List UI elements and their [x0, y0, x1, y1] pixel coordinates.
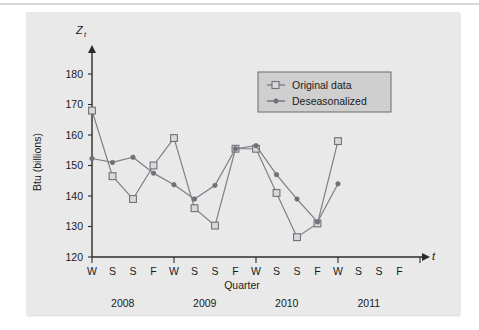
chart-figure-panel: Btu (billions) Z t t 1201301401501601701…: [26, 12, 459, 315]
y-tick-label: 150: [65, 159, 83, 171]
x-tick-labels: WSSFWSSFWSSFWSSF: [87, 257, 420, 277]
series-original-data: [89, 107, 342, 240]
x-tick-label: W: [251, 265, 261, 277]
x-tick-label: S: [211, 265, 218, 277]
data-point-marker: [294, 234, 301, 241]
data-series-group: [89, 107, 342, 240]
y-tick-label: 180: [65, 68, 83, 80]
data-point-marker: [90, 156, 94, 160]
y-tick-label: 170: [65, 98, 83, 110]
data-point-marker: [213, 183, 217, 187]
year-group-label: 2008: [111, 297, 135, 309]
x-tick-label: S: [129, 265, 136, 277]
year-group-labels: 2008200920102011: [111, 297, 380, 309]
data-point-marker: [191, 205, 198, 212]
data-point-marker: [233, 147, 237, 151]
y-tick-label: 140: [65, 190, 83, 202]
x-tick-label: S: [109, 265, 116, 277]
y-axis-title: Btu (billions): [31, 133, 43, 191]
x-tick-label: S: [293, 265, 300, 277]
x-tick-label: F: [150, 265, 156, 277]
data-point-marker: [89, 107, 96, 114]
data-point-marker: [274, 172, 278, 176]
data-point-marker: [192, 197, 196, 201]
data-point-marker: [212, 222, 219, 229]
top-divider-rule: [0, 3, 479, 5]
x-tick-label: W: [87, 265, 97, 277]
data-point-marker: [335, 138, 342, 145]
data-point-marker: [254, 143, 258, 147]
y-axis-variable-subscript: t: [84, 30, 87, 39]
data-point-marker: [336, 182, 340, 186]
x-axis-variable-label: t: [432, 250, 436, 262]
x-tick-label: S: [355, 265, 362, 277]
legend-marker-square-icon: [272, 82, 279, 89]
year-group-label: 2009: [193, 297, 217, 309]
x-tick-label: S: [191, 265, 198, 277]
data-point-marker: [130, 196, 137, 203]
x-tick-label: W: [333, 265, 343, 277]
x-tick-label: S: [273, 265, 280, 277]
y-tick-label: 160: [65, 129, 83, 141]
data-point-marker: [273, 190, 280, 197]
y-axis-variable-label: Z: [75, 24, 84, 36]
year-group-label: 2010: [275, 297, 299, 309]
time-series-chart: Btu (billions) Z t t 1201301401501601701…: [26, 12, 459, 315]
legend-label-original-data: Original data: [292, 79, 352, 91]
data-point-marker: [171, 135, 178, 142]
data-point-marker: [295, 197, 299, 201]
x-tick-label: F: [314, 265, 320, 277]
y-tick-labels: 120130140150160170180: [65, 68, 92, 263]
legend-marker-dot-icon: [274, 99, 278, 103]
x-tick-label: S: [375, 265, 382, 277]
data-point-marker: [151, 171, 155, 175]
legend-label-deseasonalized: Deseasonalized: [292, 95, 367, 107]
x-tick-label: W: [169, 265, 179, 277]
x-tick-label: F: [396, 265, 402, 277]
data-point-marker: [109, 173, 116, 180]
year-group-label: 2011: [357, 297, 380, 309]
data-point-marker: [131, 155, 135, 159]
x-axis-title: Quarter: [224, 279, 260, 291]
x-tick-label: F: [232, 265, 238, 277]
data-point-marker: [110, 160, 114, 164]
data-point-marker: [315, 220, 319, 224]
series-deseasonalized: [90, 143, 340, 224]
data-point-marker: [150, 162, 157, 169]
data-point-marker: [172, 183, 176, 187]
chart-legend: Original data Deseasonalized: [258, 72, 391, 112]
y-tick-label: 120: [65, 251, 83, 263]
y-tick-label: 130: [65, 220, 83, 232]
